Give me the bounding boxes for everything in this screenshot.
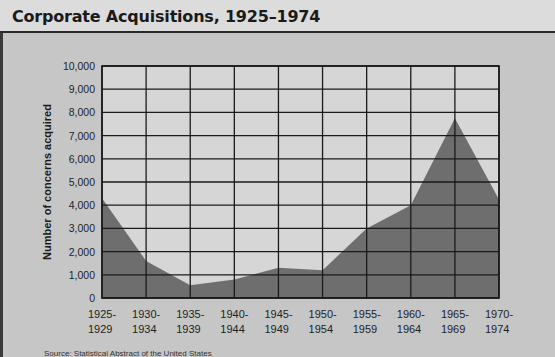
y-tick-label: 3,000 [69,222,95,234]
x-tick-label: 1929 [88,323,112,335]
y-tick-label: 2,000 [69,246,95,258]
x-tick-label: 1950- [309,308,337,320]
x-tick-label: 1954 [309,323,333,335]
x-tick-label: 1935- [176,308,204,320]
x-tick-label: 1939 [176,323,200,335]
area-chart: 01,0002,0003,0004,0005,0006,0007,0008,00… [0,0,555,357]
x-tick-label: 1959 [353,323,377,335]
source-note: Source: Statistical Abstract of the Unit… [44,349,212,357]
x-tick-label: 1945- [264,308,292,320]
y-tick-label: 9,000 [69,83,95,95]
x-tick-label: 1955- [353,308,381,320]
x-tick-label: 1970- [485,308,513,320]
x-tick-label: 1930- [132,308,160,320]
x-tick-label: 1934 [132,323,156,335]
y-tick-label: 10,000 [63,60,95,72]
y-tick-label: 7,000 [69,130,95,142]
x-tick-label: 1944 [220,323,244,335]
y-tick-label: 1,000 [69,269,95,281]
y-tick-label: 6,000 [69,153,95,165]
x-tick-label: 1949 [264,323,288,335]
y-tick-label: 5,000 [69,176,95,188]
x-tick-label: 1925- [88,308,116,320]
y-tick-label: 8,000 [69,106,95,118]
x-tick-label: 1965- [441,308,469,320]
x-tick-label: 1964 [397,323,421,335]
y-tick-label: 0 [89,292,95,304]
y-axis-label: Number of concerns acquired [41,104,53,260]
x-tick-label: 1960- [397,308,425,320]
x-tick-label: 1974 [485,323,509,335]
x-tick-label: 1940- [220,308,248,320]
x-tick-label: 1969 [441,323,465,335]
y-tick-label: 4,000 [69,199,95,211]
